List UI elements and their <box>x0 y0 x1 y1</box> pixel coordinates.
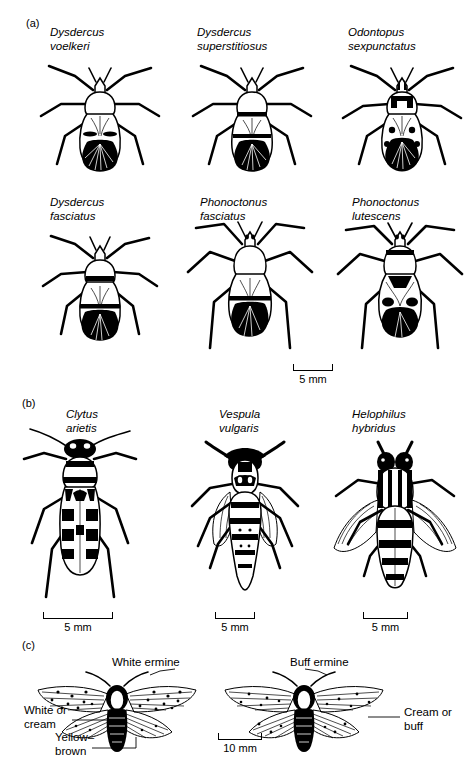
scale-bar-line <box>363 612 408 619</box>
scale-bar-helophilus: 5 mm <box>363 612 408 633</box>
scale-bar-label: 5 mm <box>64 621 92 633</box>
insect-drawing-dysdercus-fasciatus <box>35 228 165 353</box>
scale-bar-label: 10 mm <box>223 742 257 754</box>
insect-drawing-phonoctonus-fasciatus <box>180 218 320 363</box>
insect-drawing-phonoctonus-lutescens <box>330 218 468 363</box>
insect-drawing-vespula-vulgaris <box>180 440 310 605</box>
scale-bar-label: 5 mm <box>299 373 327 385</box>
species-label-helophilus-hybridus: Helophilus hybridus <box>352 408 406 435</box>
insect-drawing-dysdercus-superstitiosus <box>187 60 317 185</box>
scale-bar-panel-c: 10 mm <box>218 733 262 754</box>
insect-drawing-dysdercus-voelkeri <box>35 60 165 185</box>
insect-drawing-white-ermine-moth <box>28 668 203 759</box>
species-label-dysdercus-fasciatus: Dysdercus fasciatus <box>50 196 104 223</box>
species-label-dysdercus-voelkeri: Dysdercus voelkeri <box>50 26 104 53</box>
species-label-dysdercus-superstitiosus: Dysdercus superstitiosus <box>197 26 267 53</box>
scale-bar-line <box>293 364 333 371</box>
scale-bar-panel-a: 5 mm <box>293 364 333 385</box>
panel-label-a: (a) <box>26 18 39 29</box>
species-label-vespula-vulgaris: Vespula vulgaris <box>219 408 260 435</box>
insect-drawing-helophilus-hybridus <box>320 440 468 605</box>
scale-bar-line <box>43 612 113 619</box>
scale-bar-vespula: 5 mm <box>215 612 255 633</box>
insect-drawing-clytus-arietis <box>10 425 150 610</box>
scale-bar-label: 5 mm <box>372 621 400 633</box>
insect-drawing-odontopus-sexpunctatus <box>337 60 467 185</box>
scale-bar-label: 5 mm <box>221 621 249 633</box>
scale-bar-line <box>218 733 262 740</box>
scale-bar-clytus: 5 mm <box>43 612 113 633</box>
panel-label-b: (b) <box>22 398 35 409</box>
species-label-odontopus-sexpunctatus: Odontopus sexpunctatus <box>348 26 416 53</box>
scale-bar-line <box>215 612 255 619</box>
